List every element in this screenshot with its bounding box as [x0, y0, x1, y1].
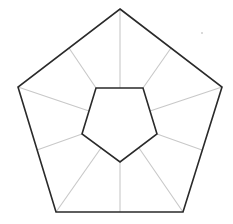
stray-dot	[201, 32, 202, 33]
spoke-line	[69, 48, 96, 88]
spoke-line	[150, 87, 222, 111]
pentagon-diagram	[0, 0, 233, 224]
spoke-line	[56, 148, 101, 212]
inner-pentagon	[82, 88, 157, 162]
spokes	[18, 9, 222, 212]
spoke-line	[157, 134, 202, 150]
spoke-line	[18, 87, 89, 111]
spoke-line	[37, 134, 82, 150]
diagram-svg	[0, 0, 233, 224]
spoke-line	[139, 148, 183, 212]
spoke-line	[143, 48, 171, 88]
